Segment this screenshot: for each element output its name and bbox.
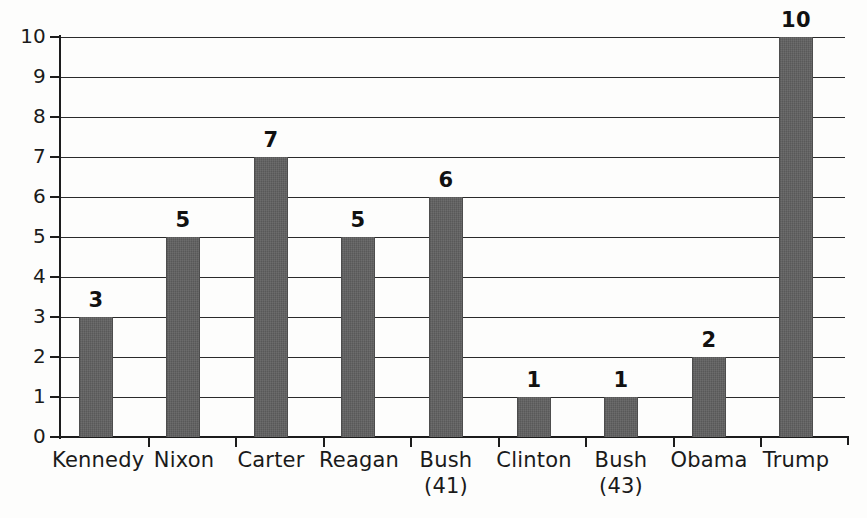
x-axis-category-label: Carter <box>227 448 315 473</box>
y-axis-tick-label-wrap: 10 <box>0 26 46 46</box>
x-axis-tick <box>235 437 237 447</box>
x-axis-label-secondary: (41) <box>402 473 490 500</box>
x-axis-label-primary: Bush <box>420 448 473 472</box>
x-axis-category-label: Bush(41) <box>402 448 490 500</box>
x-axis-category-label: Trump <box>752 448 840 473</box>
x-axis-tick <box>498 437 500 447</box>
bar <box>604 397 638 437</box>
x-axis-tick <box>673 437 675 447</box>
gridline <box>60 117 845 118</box>
bar-value-label: 7 <box>234 130 308 151</box>
y-axis-tick-label-wrap: 9 <box>0 66 46 86</box>
bar-value-label: 3 <box>59 290 133 311</box>
plot-area: 012345678910 3575611210 KennedyNixonCart… <box>0 0 867 518</box>
gridline <box>60 157 845 158</box>
y-axis-tick-label-wrap: 3 <box>0 306 46 326</box>
bar <box>429 197 463 437</box>
x-axis-category-label: Kennedy <box>52 448 140 473</box>
y-axis-tick-label-wrap: 8 <box>0 106 46 126</box>
bar-value-label: 10 <box>759 10 833 31</box>
x-axis-tick <box>148 437 150 447</box>
y-axis-tick-label: 3 <box>10 306 46 326</box>
x-axis-category-label: Clinton <box>490 448 578 473</box>
bar <box>79 317 113 437</box>
bar <box>779 37 813 437</box>
y-axis-tick-label-wrap: 6 <box>0 186 46 206</box>
gridline <box>60 37 845 38</box>
bar-value-label: 5 <box>146 210 220 231</box>
x-axis-label-primary: Nixon <box>154 448 214 472</box>
x-axis-label-primary: Clinton <box>496 448 571 472</box>
bar-value-label: 6 <box>409 170 483 191</box>
bar <box>341 237 375 437</box>
x-axis-label-secondary: (43) <box>577 473 665 500</box>
y-axis-tick-label: 2 <box>10 346 46 366</box>
x-axis-tick <box>585 437 587 447</box>
bar <box>692 357 726 437</box>
y-axis-tick-label: 7 <box>10 146 46 166</box>
y-axis-tick-label: 6 <box>10 186 46 206</box>
y-axis-tick-label-wrap: 7 <box>0 146 46 166</box>
bar-value-label: 2 <box>672 330 746 351</box>
y-axis-tick-label: 8 <box>10 106 46 126</box>
bar-value-label: 1 <box>584 370 658 391</box>
x-axis-label-primary: Bush <box>595 448 648 472</box>
y-axis-tick-label-wrap: 5 <box>0 226 46 246</box>
x-axis-endcap <box>847 436 849 445</box>
bar <box>166 237 200 437</box>
y-axis-tick-label: 0 <box>10 426 46 446</box>
x-axis-label-primary: Carter <box>237 448 304 472</box>
bar <box>517 397 551 437</box>
y-axis-line <box>59 35 61 439</box>
x-axis-category-label: Nixon <box>140 448 228 473</box>
y-axis-tick-label-wrap: 4 <box>0 266 46 286</box>
x-axis-tick <box>760 437 762 447</box>
x-axis-tick <box>323 437 325 447</box>
y-axis-tick-label-wrap: 1 <box>0 386 46 406</box>
bar <box>254 157 288 437</box>
y-axis-tick-label-wrap: 2 <box>0 346 46 366</box>
x-axis-label-primary: Kennedy <box>52 448 144 472</box>
bar-value-label: 1 <box>497 370 571 391</box>
x-axis-category-label: Reagan <box>315 448 403 473</box>
gridline <box>60 77 845 78</box>
bar-value-label: 5 <box>321 210 395 231</box>
y-axis-tick-label: 1 <box>10 386 46 406</box>
x-axis-label-primary: Obama <box>670 448 747 472</box>
x-axis-label-primary: Trump <box>763 448 829 472</box>
y-axis-tick-label: 4 <box>10 266 46 286</box>
x-axis-tick <box>410 437 412 447</box>
y-axis-tick-label: 5 <box>10 226 46 246</box>
y-axis-tick-label: 10 <box>10 26 46 46</box>
y-axis-tick-label-wrap: 0 <box>0 426 46 446</box>
bar-chart: 012345678910 3575611210 KennedyNixonCart… <box>0 0 867 518</box>
x-axis-category-label: Bush(43) <box>577 448 665 500</box>
y-axis-tick-label: 9 <box>10 66 46 86</box>
x-axis-category-label: Obama <box>665 448 753 473</box>
x-axis-label-primary: Reagan <box>319 448 399 472</box>
